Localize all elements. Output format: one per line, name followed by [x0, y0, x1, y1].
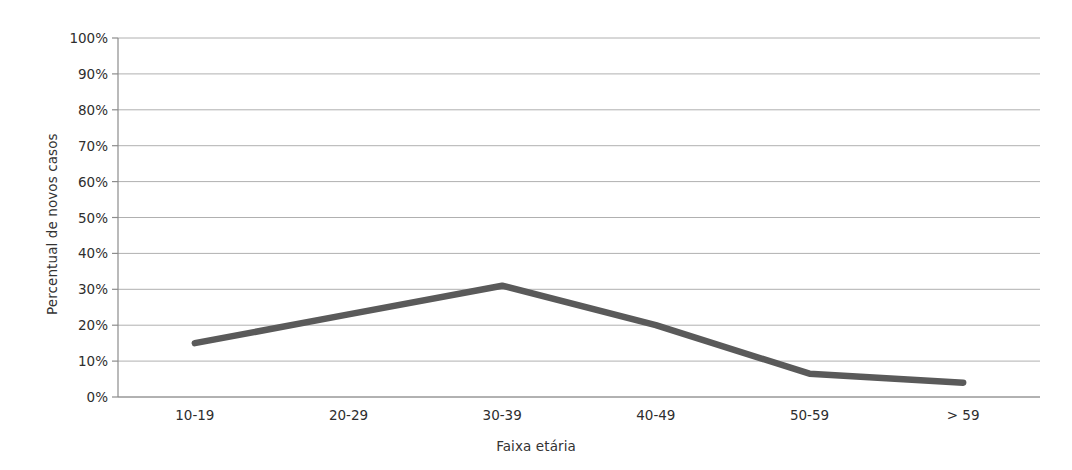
y-axis-title: Percentual de novos casos	[44, 133, 60, 315]
x-axis-tick-label: > 59	[947, 407, 980, 423]
y-axis-tick-label: 30%	[54, 281, 108, 297]
data-series-line	[195, 286, 963, 383]
y-axis-tick-labels: 100%90%80%70%60%50%40%30%20%10%0%	[54, 0, 108, 470]
x-axis-tick-label: 40-49	[636, 407, 675, 423]
y-axis-tick-label: 50%	[54, 210, 108, 226]
x-axis-tick-label: 50-59	[790, 407, 829, 423]
line-chart-plot	[0, 0, 1072, 470]
y-tick-marks-group	[112, 38, 118, 397]
y-axis-tick-label: 80%	[54, 102, 108, 118]
chart-container: 100%90%80%70%60%50%40%30%20%10%0% 10-192…	[0, 0, 1072, 470]
y-axis-tick-label: 20%	[54, 317, 108, 333]
x-axis-tick-label: 20-29	[329, 407, 368, 423]
y-axis-tick-label: 10%	[54, 353, 108, 369]
x-axis-title: Faixa etária	[0, 438, 1072, 454]
x-axis-tick-label: 10-19	[175, 407, 214, 423]
x-axis-tick-label: 30-39	[483, 407, 522, 423]
y-axis-tick-label: 70%	[54, 138, 108, 154]
y-axis-tick-label: 40%	[54, 245, 108, 261]
y-axis-tick-label: 60%	[54, 174, 108, 190]
y-axis-tick-label: 90%	[54, 66, 108, 82]
y-axis-tick-label: 100%	[54, 30, 108, 46]
x-axis-tick-labels: 10-1920-2930-3940-4950-59> 59	[118, 401, 1040, 425]
y-axis-tick-label: 0%	[54, 389, 108, 405]
gridlines-group	[118, 38, 1040, 397]
